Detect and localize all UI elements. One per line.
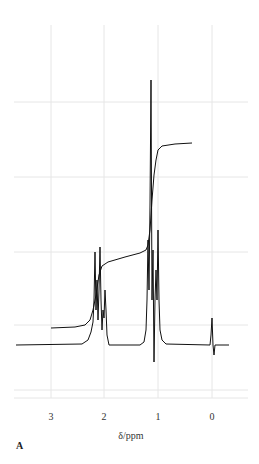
nmr-spectrum-plot xyxy=(0,0,259,464)
x-tick-2: 2 xyxy=(102,411,107,422)
x-tick-3: 3 xyxy=(49,411,54,422)
x-tick-1: 1 xyxy=(156,411,161,422)
spectrum-trace xyxy=(16,80,229,362)
x-tick-0: 0 xyxy=(210,411,215,422)
x-axis-label: δ/ppm xyxy=(118,430,143,441)
integral-trace xyxy=(51,143,192,328)
panel-label: A xyxy=(16,440,23,451)
